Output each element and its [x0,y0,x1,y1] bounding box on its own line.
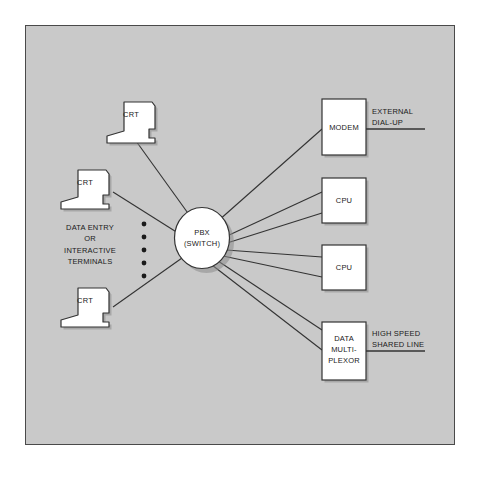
external-dial-up-label: EXTERNAL DIAL-UP [372,106,448,129]
high-speed-shared-line-label: HIGH SPEED SHARED LINE [372,328,454,351]
terminal-group-label: DATA ENTRY OR INTERACTIVE TERMINALS [46,222,134,267]
